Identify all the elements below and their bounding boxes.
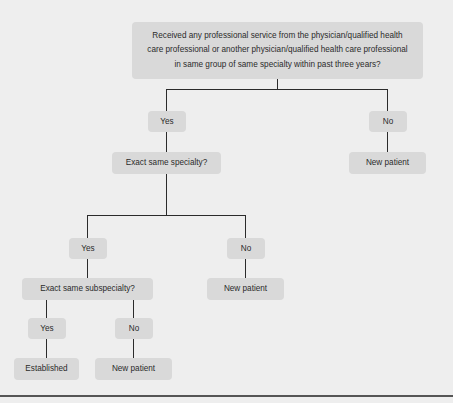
connector-level3-yes-drop — [46, 300, 47, 318]
level3-yes-text: Yes — [40, 323, 53, 335]
connector-specialty-stem — [166, 174, 167, 216]
connector-level1-yes-to-specialty — [166, 132, 167, 152]
level3-yes-outcome-text: Established — [25, 363, 67, 375]
level3-no-outcome-box: New patient — [95, 358, 172, 380]
level2-yes-text: Yes — [81, 243, 94, 255]
connector-level1-no-to-newpatient — [387, 132, 388, 152]
level3-no-outcome-text: New patient — [112, 363, 155, 375]
connector-level2-split — [87, 215, 246, 216]
connector-level1-split — [166, 89, 388, 90]
specialty-question-box: Exact same specialty? — [112, 152, 221, 174]
level3-no-label: No — [115, 318, 153, 339]
connector-level3-no-to-newpatient — [133, 339, 134, 358]
connector-level3-no-drop — [133, 300, 134, 318]
level1-no-text: No — [383, 116, 393, 128]
level1-no-label: No — [369, 111, 407, 132]
connector-level2-no-drop — [245, 215, 246, 238]
level2-no-label: No — [227, 238, 265, 259]
subspecialty-question-text: Exact same subspecialty? — [40, 283, 135, 295]
level1-yes-label: Yes — [148, 111, 186, 132]
bottom-divider-rule — [0, 395, 453, 397]
connector-level1-no-drop — [387, 89, 388, 111]
root-question-box: Received any professional service from t… — [132, 22, 423, 79]
level1-no-outcome-box: New patient — [349, 152, 426, 174]
level3-yes-label: Yes — [28, 318, 66, 339]
specialty-question-text: Exact same specialty? — [126, 157, 207, 169]
level1-yes-text: Yes — [160, 116, 173, 128]
flowchart-canvas: Received any professional service from t… — [0, 0, 453, 403]
root-question-line-1: Received any professional service from t… — [147, 29, 407, 43]
level2-no-outcome-text: New patient — [224, 283, 267, 295]
connector-level1-yes-drop — [166, 89, 167, 111]
connector-level2-yes-to-subspecialty — [87, 259, 88, 278]
root-question-text: Received any professional service from t… — [147, 29, 407, 72]
level2-no-text: No — [241, 243, 251, 255]
subspecialty-question-box: Exact same subspecialty? — [22, 278, 153, 300]
root-question-line-2: care professional or another physician/q… — [147, 43, 407, 57]
level3-no-text: No — [129, 323, 139, 335]
connector-level2-yes-drop — [87, 215, 88, 238]
level2-no-outcome-box: New patient — [207, 278, 284, 300]
level2-yes-label: Yes — [69, 238, 107, 259]
connector-level3-yes-to-established — [46, 339, 47, 358]
root-question-line-3: in same group of same specialty within p… — [147, 58, 407, 72]
connector-level2-no-to-newpatient — [245, 259, 246, 278]
level3-yes-outcome-box: Established — [14, 358, 79, 380]
level1-no-outcome-text: New patient — [366, 157, 409, 169]
